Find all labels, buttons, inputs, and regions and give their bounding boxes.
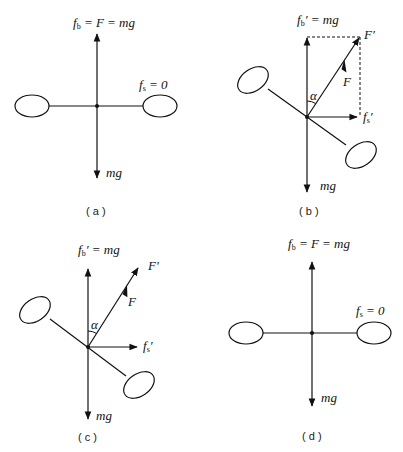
upper-mass [233,61,273,99]
label-friction: fs′ [143,338,153,354]
label-force: F [342,74,352,89]
lower-mass [119,366,159,404]
right-mass [143,95,177,117]
label-top: fb = F = mg [73,15,135,31]
panel-c: fb′ = mg F′ F α fs′ mg ( c ) [15,242,159,443]
left-mass [15,95,49,117]
label-bottom: mg [320,178,336,193]
pivot-dot [86,345,90,349]
force-diagram-figure: fb = F = mg fs = 0 mg ( a ) fb′ = mg F′ … [0,0,403,452]
caption-b: ( b ) [299,205,319,217]
label-right: fs = 0 [139,77,168,93]
panel-b: fb′ = mg F′ F α fs′ mg ( b ) [233,12,381,217]
label-top: fb = F = mg [288,236,350,252]
right-mass [357,322,391,344]
caption-c: ( c ) [78,431,97,443]
label-bottom: mg [321,390,337,405]
panel-d: fb = F = mg fs = 0 mg ( d ) [229,236,391,442]
label-top: fb′ = mg [297,12,339,28]
label-top: fb′ = mg [78,242,120,258]
resultant-arrow [307,38,359,117]
pivot-dot [95,104,99,108]
panel-a: fb = F = mg fs = 0 mg ( a ) [15,15,177,217]
label-force: F [127,294,137,309]
label-bottom: mg [96,408,112,423]
pivot-dot [305,115,309,119]
left-mass [229,322,263,344]
pivot-dot [310,331,314,335]
label-resultant: F′ [147,258,159,273]
label-angle: α [310,88,318,103]
caption-a: ( a ) [86,205,106,217]
label-right: fs = 0 [356,303,385,319]
upper-mass [15,291,55,329]
label-friction: fs′ [363,109,373,125]
label-angle: α [91,317,99,332]
label-resultant: F′ [363,27,375,42]
label-bottom: mg [106,165,122,180]
force-mid-arrowhead [342,59,347,73]
caption-d: ( d ) [302,430,322,442]
lower-mass [341,136,381,174]
